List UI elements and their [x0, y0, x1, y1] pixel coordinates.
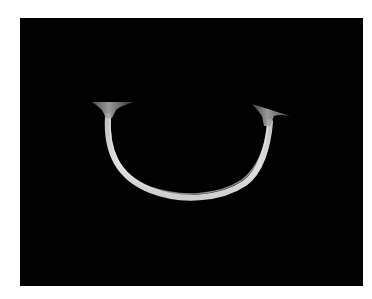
image-frame	[20, 18, 363, 286]
curved-bone-shape	[20, 18, 363, 286]
